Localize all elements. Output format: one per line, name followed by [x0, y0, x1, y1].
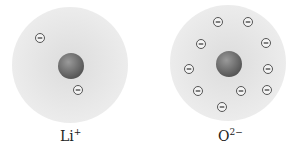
o-symbol: O: [218, 128, 229, 144]
nucleus: [58, 53, 84, 79]
oxide-ion: [170, 5, 286, 121]
electron-icon: [262, 39, 271, 48]
li-charge: +: [74, 127, 82, 137]
electron-icon: [197, 40, 206, 49]
electron-icon: [194, 87, 203, 96]
electron-icon: [74, 86, 83, 95]
electron-icon: [214, 18, 223, 27]
electron-icon: [237, 87, 246, 96]
ion-diagram: [0, 0, 291, 152]
li-symbol: Li: [60, 128, 74, 144]
electron-icon: [185, 65, 194, 74]
nucleus: [216, 51, 242, 77]
electron-icon: [264, 65, 273, 74]
electron-icon: [244, 18, 253, 27]
electron-icon: [218, 103, 227, 112]
oxide-ion-label: O2−: [218, 127, 243, 144]
o-charge: 2−: [229, 127, 242, 137]
lithium-ion: [12, 7, 128, 123]
li-ion-label: Li+: [60, 127, 81, 144]
electron-icon: [263, 86, 272, 95]
electron-icon: [36, 34, 45, 43]
